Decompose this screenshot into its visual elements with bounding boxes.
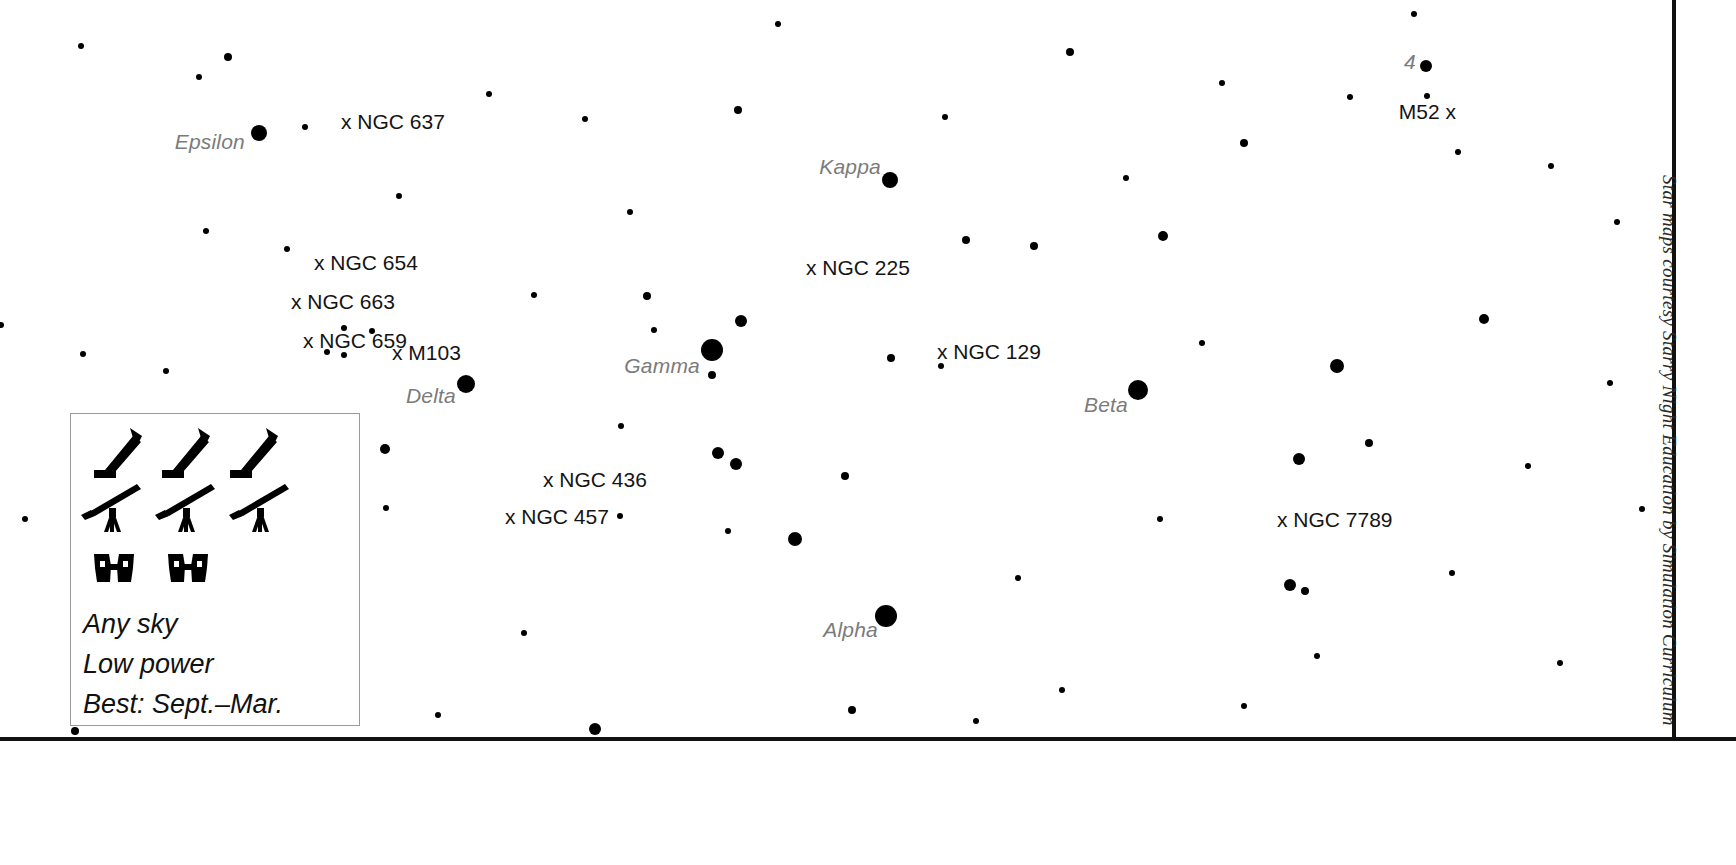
deep-sky-object-label: x NGC 637 [341, 110, 445, 134]
star-dot [1449, 570, 1455, 576]
star-dot [887, 354, 895, 362]
star-dot [251, 125, 267, 141]
star-dot [0, 322, 4, 328]
star-name-label: Epsilon [175, 130, 245, 154]
refractor-telescope-icon [79, 482, 143, 538]
binoculars-icon [167, 552, 209, 586]
refractor-telescope-icon [153, 482, 217, 538]
star-dot [1639, 506, 1645, 512]
star-dot [627, 209, 633, 215]
deep-sky-object-label: x NGC 457 [505, 505, 609, 529]
star-dot [71, 727, 79, 735]
star-dot [1301, 587, 1309, 595]
star-name-label: Delta [406, 384, 456, 408]
deep-sky-object-label: M52 x [1399, 100, 1456, 124]
star-dot [1030, 242, 1038, 250]
star-dot [1059, 687, 1065, 693]
star-dot [708, 371, 716, 379]
legend-line-sky: Any sky [83, 604, 358, 644]
star-dot [734, 106, 742, 114]
star-dot [1525, 463, 1531, 469]
star-dot [163, 368, 169, 374]
deep-sky-object-label: x NGC 129 [937, 340, 1041, 364]
star-dot [1548, 163, 1554, 169]
star-dot [302, 124, 308, 130]
star-dot [224, 53, 232, 61]
star-name-label: 4 [1404, 50, 1416, 74]
star-dot [1347, 94, 1353, 100]
star-dot [788, 532, 802, 546]
star-name-label: Kappa [819, 155, 881, 179]
credit-line: Star maps courtesy Starry Night Educatio… [1658, 175, 1680, 735]
star-dot [1293, 453, 1305, 465]
star-dot [1330, 359, 1344, 373]
dobsonian-telescope-icon [89, 426, 145, 480]
binoculars-row [93, 552, 209, 590]
star-dot [78, 43, 84, 49]
refractor-telescope-icon [227, 482, 291, 534]
star-dot [942, 114, 948, 120]
star-dot [435, 712, 441, 718]
star-dot [582, 116, 588, 122]
star-dot [521, 630, 527, 636]
star-dot [1314, 653, 1320, 659]
star-map-page: EpsilonKappaGammaDeltaBetaAlpha4x NGC 63… [0, 0, 1736, 865]
star-dot [882, 172, 898, 188]
refractor-telescope-icon [227, 482, 291, 538]
star-dot [973, 718, 979, 724]
star-dot [1123, 175, 1129, 181]
star-dot [643, 292, 651, 300]
star-dot [1158, 231, 1168, 241]
deep-sky-object-label: x NGC 654 [314, 251, 418, 275]
star-dot [457, 375, 475, 393]
star-dot [80, 351, 86, 357]
star-dot [486, 91, 492, 97]
star-name-label: Beta [1084, 393, 1128, 417]
star-dot [1420, 60, 1432, 72]
star-dot [589, 723, 601, 735]
star-dot [775, 21, 781, 27]
star-dot [1128, 380, 1148, 400]
dobsonian-telescope-icon [225, 426, 281, 484]
dobsonian-telescope-icon [157, 426, 213, 484]
star-dot [701, 339, 723, 361]
star-dot [396, 193, 402, 199]
star-name-label: Alpha [823, 618, 878, 642]
star-dot [1066, 48, 1074, 56]
deep-sky-object-label: x NGC 225 [806, 256, 910, 280]
star-dot [1015, 575, 1021, 581]
legend-line-season: Best: Sept.–Mar. [83, 684, 358, 724]
star-name-label: Gamma [624, 354, 700, 378]
star-dot [196, 74, 202, 80]
star-dot [383, 505, 389, 511]
star-dot [1607, 380, 1613, 386]
binoculars-icon [93, 552, 135, 590]
deep-sky-object-label: x NGC 663 [291, 290, 395, 314]
star-dot [284, 246, 290, 252]
star-dot [730, 458, 742, 470]
star-dot [1199, 340, 1205, 346]
binoculars-icon [167, 552, 209, 590]
star-dot [725, 528, 731, 534]
star-dot [1455, 149, 1461, 155]
star-dot [1557, 660, 1563, 666]
star-dot [203, 228, 209, 234]
deep-sky-object-label: x M103 [392, 341, 461, 365]
star-dot [531, 292, 537, 298]
star-dot [1479, 314, 1489, 324]
legend-line-power: Low power [83, 644, 358, 684]
observing-legend-box: Any sky Low power Best: Sept.–Mar. [70, 413, 360, 726]
star-dot [1424, 93, 1430, 99]
binoculars-icon [93, 552, 135, 586]
star-dot [962, 236, 970, 244]
refractor-telescope-icon [153, 482, 217, 534]
star-dot [1241, 703, 1247, 709]
deep-sky-object-label: x NGC 436 [543, 468, 647, 492]
star-dot [1219, 80, 1225, 86]
star-dot [22, 516, 28, 522]
star-dot [651, 327, 657, 333]
star-dot [1240, 139, 1248, 147]
star-dot [1284, 579, 1296, 591]
star-dot [1365, 439, 1373, 447]
star-dot [1411, 11, 1417, 17]
